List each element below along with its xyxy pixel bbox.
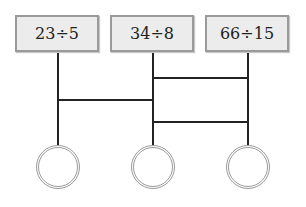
expression-label: 66÷15 [220,24,274,43]
expression-box-3: 66÷15 [205,15,289,52]
expression-label: 23÷5 [35,24,79,43]
answer-circle-2[interactable] [131,145,175,189]
expression-box-2: 34÷8 [110,15,194,52]
answer-circle-3[interactable] [226,145,270,189]
answer-circle-1[interactable] [36,145,80,189]
rung-1-2 [57,99,153,101]
vertical-line-3 [247,53,249,145]
expression-box-1: 23÷5 [15,15,99,52]
rung-2-3-upper [152,77,248,79]
rung-2-3-lower [152,121,248,123]
expression-label: 34÷8 [130,24,174,43]
